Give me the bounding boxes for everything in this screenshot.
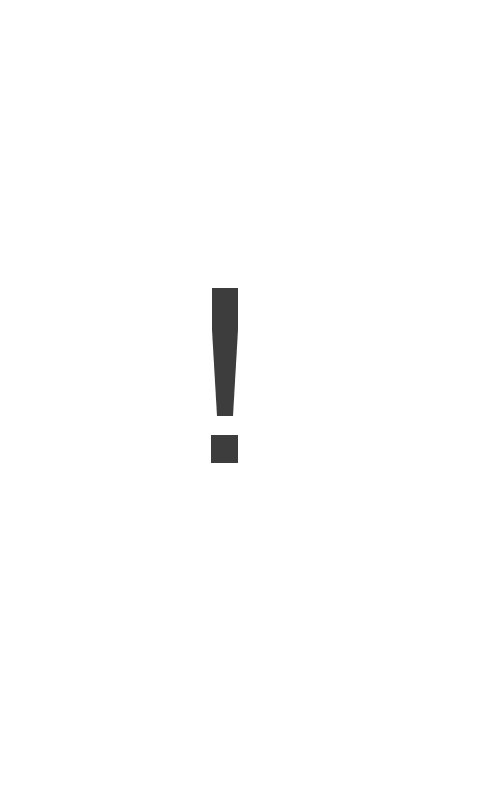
- exclamation-bar: [212, 288, 238, 416]
- blank-page: !: [0, 0, 483, 793]
- exclamation-dot: [211, 435, 238, 463]
- exclamation-mark-icon: [0, 0, 483, 793]
